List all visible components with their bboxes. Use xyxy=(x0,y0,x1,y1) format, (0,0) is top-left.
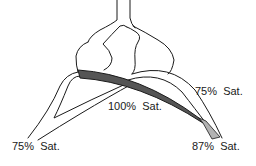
saturated-band xyxy=(78,70,203,123)
label-center-saturation: 100% Sat. xyxy=(108,101,162,112)
left-bulb xyxy=(76,42,88,72)
trunk-right-branch xyxy=(133,26,174,74)
trunk-split xyxy=(103,25,127,70)
label-right-lower-saturation: 87% Sat. xyxy=(192,141,240,152)
trunk-right-wall xyxy=(130,0,135,28)
label-right-upper-saturation: 75% Sat. xyxy=(195,86,243,97)
left-lower-vessel xyxy=(38,84,132,140)
trunk-split-right xyxy=(127,27,140,74)
mixed-band xyxy=(199,118,220,139)
label-left-lower-saturation: 75% Sat. xyxy=(12,141,60,152)
trunk-left-wall xyxy=(88,0,117,42)
